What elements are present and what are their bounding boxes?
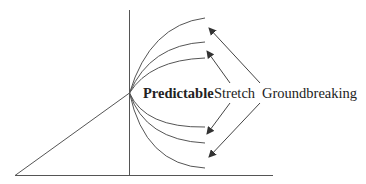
groundbreaking-arrow-down [209,103,260,157]
label-groundbreaking: Groundbreaking [262,86,357,101]
groundbreaking-arrow-up [209,28,260,83]
lower-curve-outer [130,93,206,168]
label-stretch: Stretch [214,86,255,101]
stretch-arrow-up [207,51,230,83]
diagonal-line [15,93,130,176]
stretch-arrow-down [207,103,230,134]
diagram-canvas: Predictable Stretch Groundbreaking [0,0,366,184]
upper-curve-outer [130,18,206,93]
label-predictable: Predictable [143,86,214,101]
